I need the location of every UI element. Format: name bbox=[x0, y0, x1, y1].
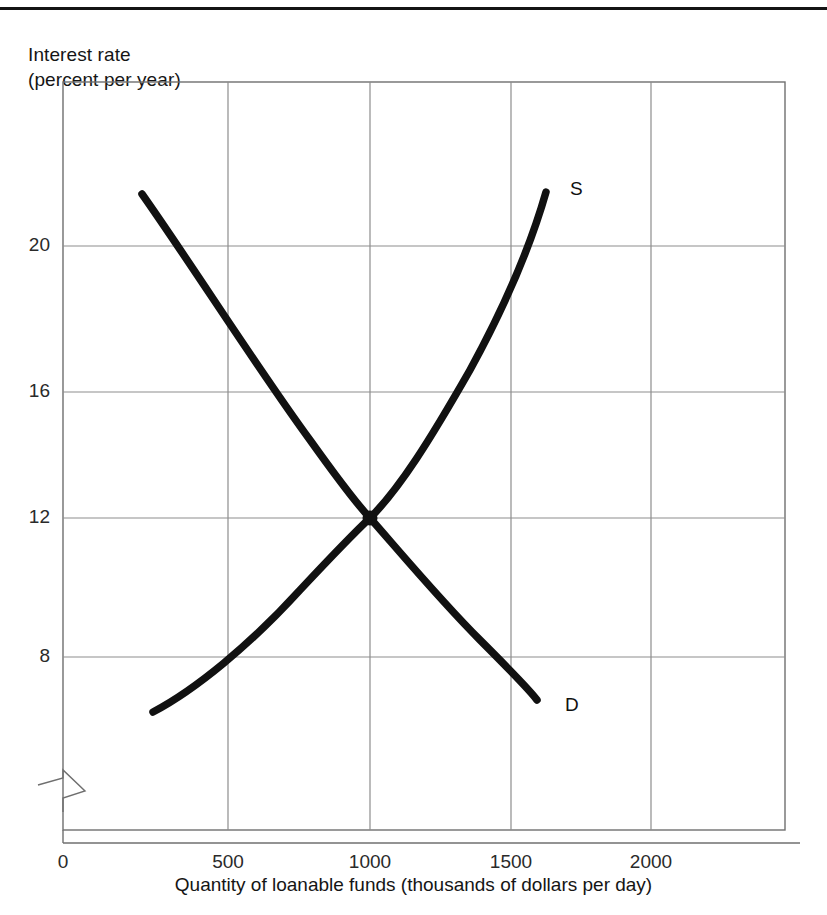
y-tick-label-20: 20 bbox=[6, 234, 50, 256]
supply-curve-label: S bbox=[570, 178, 583, 200]
x-axis-title: Quantity of loanable funds (thousands of… bbox=[0, 874, 827, 896]
y-tick-label-12: 12 bbox=[6, 506, 50, 528]
demand-curve bbox=[142, 194, 537, 700]
equilibrium-point-marker bbox=[363, 511, 378, 526]
x-tick-label-0: 0 bbox=[33, 851, 93, 873]
axis-break-zigzag bbox=[38, 770, 85, 812]
y-tick-label-8: 8 bbox=[6, 645, 50, 667]
plot-frame bbox=[63, 82, 785, 830]
x-tick-label-500: 500 bbox=[198, 851, 258, 873]
demand-curve-label: D bbox=[565, 694, 579, 716]
loanable-funds-market-figure: Interest rate(percent per year) 20 16 12… bbox=[0, 0, 827, 915]
y-tick-label-16: 16 bbox=[6, 380, 50, 402]
chart-canvas bbox=[0, 0, 827, 915]
x-tick-label-1500: 1500 bbox=[481, 851, 541, 873]
supply-curve bbox=[153, 192, 546, 712]
x-tick-label-2000: 2000 bbox=[621, 851, 681, 873]
x-tick-label-1000: 1000 bbox=[340, 851, 400, 873]
